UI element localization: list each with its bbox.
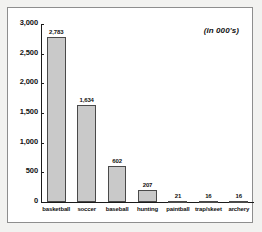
bar (108, 166, 127, 202)
y-axis-tick-label: 1,500 (10, 108, 38, 116)
figure-frame: (in 000's) 05001,0001,5002,0002,5003,000… (7, 7, 253, 223)
y-axis-tick-mark (41, 54, 44, 55)
x-axis-category-label: baseball (102, 206, 132, 212)
bar (229, 201, 248, 203)
bar (199, 201, 218, 203)
bar-value-label: 207 (143, 182, 153, 188)
x-axis-category-label: basketball (41, 206, 71, 212)
bar-value-label: 1,634 (80, 97, 94, 103)
y-axis-tick-mark (41, 24, 44, 25)
x-axis-category-label: hunting (132, 206, 162, 212)
chart-figure: (in 000's) 05001,0001,5002,0002,5003,000… (0, 0, 262, 232)
bar-value-label: 2,783 (49, 29, 63, 35)
bar (47, 37, 66, 202)
y-axis-tick-label: 500 (10, 167, 38, 175)
y-axis-tick-label: 1,000 (10, 138, 38, 146)
x-axis-line (41, 202, 254, 203)
x-axis-category-label: archery (224, 206, 254, 212)
y-axis-tick-mark (41, 113, 44, 114)
y-axis-tick-mark (41, 83, 44, 84)
y-axis-tick-mark (41, 143, 44, 144)
x-axis-category-label: paintball (163, 206, 193, 212)
bar (77, 105, 96, 202)
bar-value-label: 16 (236, 193, 242, 199)
units-annotation: (in 000's) (204, 26, 239, 35)
bar-value-label: 602 (112, 158, 122, 164)
x-axis-category-label: trap/skeet (193, 206, 223, 212)
y-axis-tick-label: 3,000 (10, 19, 38, 27)
bar (138, 190, 157, 202)
bar-value-label: 21 (175, 193, 181, 199)
y-axis-tick-label: 2,500 (10, 49, 38, 57)
bar (168, 201, 187, 203)
y-axis-tick-labels: 05001,0001,5002,0002,5003,000 (10, 8, 38, 232)
y-axis-tick-mark (41, 172, 44, 173)
x-axis-category-label: soccer (71, 206, 101, 212)
y-axis-tick-label: 2,000 (10, 78, 38, 86)
bar-value-label: 16 (205, 193, 211, 199)
y-axis-tick-label: 0 (10, 197, 38, 205)
